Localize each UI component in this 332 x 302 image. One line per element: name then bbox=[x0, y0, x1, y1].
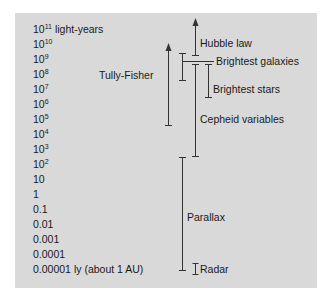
hubble-law-bar bbox=[192, 24, 199, 56]
brightest-stars-label: Brightest stars bbox=[213, 83, 280, 95]
radar-label: Radar bbox=[200, 263, 229, 275]
tully-fisher-label: Tully-Fisher bbox=[99, 69, 153, 81]
parallax-label: Parallax bbox=[187, 211, 225, 223]
brightest-stars-bar bbox=[205, 64, 212, 98]
method-range-bars bbox=[0, 0, 332, 302]
tully-fisher-arrow-icon bbox=[166, 43, 172, 51]
cepheid-variables-bar bbox=[192, 64, 199, 157]
hubble-law-label: Hubble law bbox=[200, 37, 252, 49]
cepheid-variables-label: Cepheid variables bbox=[200, 113, 284, 125]
radar-bar bbox=[193, 263, 199, 275]
parallax-bar bbox=[179, 157, 186, 271]
tully-fisher-bar bbox=[165, 48, 172, 126]
hubble-arrow-icon bbox=[193, 18, 199, 26]
brightest-galaxies-label: Brightest galaxies bbox=[216, 55, 299, 67]
